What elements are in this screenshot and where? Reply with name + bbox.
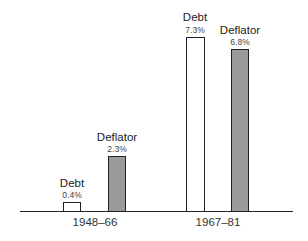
bar-deflator-1967-81 [231,49,249,212]
bar-chart: Debt 0.4% Deflator 2.3% Debt 7.3% Deflat… [0,0,308,241]
value-debt-1967-81: 7.3% [175,25,215,35]
value-deflator-1967-81: 6.8% [215,37,265,47]
x-tick-1948-66: 1948–66 [55,216,135,228]
label-debt-1967-81: Debt [175,11,215,23]
x-tick-1967-81: 1967–81 [178,216,258,228]
value-deflator-1948-66: 2.3% [92,144,142,154]
label-debt-1948-66: Debt [52,177,92,189]
x-axis-baseline [20,211,293,212]
bar-deflator-1948-66 [108,156,126,212]
bar-debt-1967-81 [186,37,205,212]
label-deflator-1948-66: Deflator [92,131,142,143]
label-deflator-1967-81: Deflator [215,24,265,36]
value-debt-1948-66: 0.4% [52,190,92,200]
